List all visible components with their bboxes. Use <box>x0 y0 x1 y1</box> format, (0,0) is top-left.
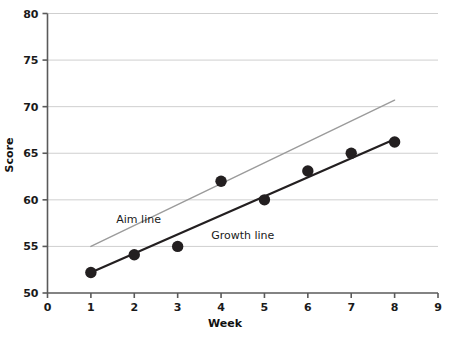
y-tick-label-75: 75 <box>23 54 38 67</box>
x-tick-label-2: 2 <box>130 301 138 314</box>
y-tick-label-60: 60 <box>23 194 39 207</box>
chart-container: 50556065707580 0123456789 Aim lineGrowth… <box>0 0 451 337</box>
data-point <box>85 267 96 278</box>
data-point <box>346 148 357 159</box>
scatter-chart: 50556065707580 0123456789 Aim lineGrowth… <box>0 0 451 337</box>
data-point <box>259 194 270 205</box>
y-tick-label-50: 50 <box>23 287 39 300</box>
x-tick-label-3: 3 <box>174 301 182 314</box>
x-tick-label-1: 1 <box>87 301 95 314</box>
data-point <box>215 176 226 187</box>
data-point <box>129 249 140 260</box>
y-tick-label-55: 55 <box>23 240 38 253</box>
y-axis-title: Score <box>3 138 16 173</box>
x-tick-label-7: 7 <box>347 301 355 314</box>
y-tick-label-65: 65 <box>23 147 38 160</box>
x-tick-label-8: 8 <box>391 301 399 314</box>
chart-background <box>0 0 451 337</box>
y-tick-label-80: 80 <box>23 8 39 21</box>
x-axis-title: Week <box>208 317 243 330</box>
x-tick-label-0: 0 <box>44 301 52 314</box>
x-tick-label-6: 6 <box>304 301 312 314</box>
x-tick-label-4: 4 <box>217 301 225 314</box>
data-point <box>172 241 183 252</box>
annotation-growth-line: Growth line <box>211 229 274 242</box>
x-tick-label-5: 5 <box>261 301 269 314</box>
x-tick-label-9: 9 <box>434 301 442 314</box>
data-point <box>302 165 313 176</box>
y-tick-label-70: 70 <box>23 101 39 114</box>
annotation-aim-line: Aim line <box>116 213 161 226</box>
data-point <box>389 136 400 147</box>
